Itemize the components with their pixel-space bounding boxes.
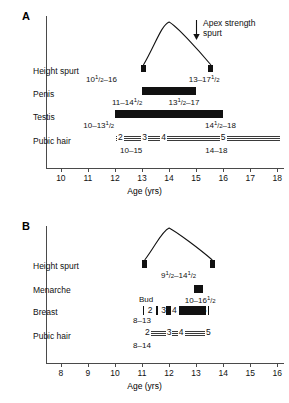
- axis-tick: [88, 168, 89, 172]
- axis-tick: [223, 168, 224, 172]
- axis-tick-label: 10: [51, 173, 71, 183]
- axis-tick: [88, 363, 89, 367]
- breast-stage-number: 2: [147, 306, 154, 315]
- breast-stage-tick: [208, 306, 210, 315]
- axis-tick: [169, 363, 170, 367]
- row-label-pubic-hair-a: Pubic hair: [33, 136, 71, 146]
- axis-tick-label: 14: [213, 368, 233, 378]
- testis-right-range: 141/2–18: [205, 120, 236, 130]
- axis-tick: [223, 363, 224, 367]
- menarche-range: 10–161/2: [185, 295, 216, 305]
- height-spurt-range-b: 91/2–141/2: [161, 270, 196, 280]
- penis-left-range: 11–141/2: [112, 97, 142, 107]
- axis-tick: [169, 168, 170, 172]
- breast-stage-number: 3: [160, 306, 167, 315]
- breast-left-range: 8–13: [133, 316, 151, 325]
- pubic-hair-stage-number: 5: [205, 328, 212, 337]
- panel-a: A 101112131415161718 Age (yrs) Apex stre…: [0, 0, 289, 200]
- axis-tick-label: 12: [105, 173, 125, 183]
- axis-tick-label: 15: [186, 173, 206, 183]
- axis-tick-label: 8: [51, 368, 71, 378]
- breast-stage-tick: [143, 306, 145, 315]
- pubic-hair-stage-number: 4: [160, 133, 167, 142]
- axis-tick-label: 17: [240, 173, 260, 183]
- row-label-breast: Breast: [33, 307, 58, 317]
- axis-tick: [142, 363, 143, 367]
- row-label-menarche: Menarche: [33, 285, 71, 295]
- axis-tick-label: 12: [159, 368, 179, 378]
- height-spurt-end-marker-a: [208, 65, 213, 72]
- row-label-testis: Testis: [33, 112, 55, 122]
- axis-tick: [115, 363, 116, 367]
- height-spurt-right-range-a: 13–171/2: [189, 74, 220, 84]
- breast-stage-tick: [156, 306, 158, 315]
- pubertal-development-figure: A 101112131415161718 Age (yrs) Apex stre…: [0, 0, 289, 403]
- row-label-penis: Penis: [33, 89, 54, 99]
- axis-tick-label: 14: [159, 173, 179, 183]
- testis-left-range: 10–131/2: [83, 120, 114, 130]
- breast-bud-label: Bud: [139, 295, 153, 304]
- panel-a-horizontal-axis: [46, 168, 284, 169]
- penis-right-range: 131/2–17: [168, 97, 199, 107]
- height-spurt-end-marker-b: [210, 260, 215, 268]
- axis-tick: [115, 168, 116, 172]
- pubic-hair-stage-number: 5: [220, 133, 227, 142]
- axis-tick: [250, 363, 251, 367]
- axis-tick: [250, 168, 251, 172]
- pubic-hair-right-range-a: 14–18: [205, 146, 227, 155]
- pubic-hair-stage-number: 4: [178, 328, 185, 337]
- pubic-hair-left-range-b: 8–14: [133, 341, 151, 350]
- menarche-marker: [194, 285, 203, 293]
- axis-tick-label: 16: [267, 368, 287, 378]
- axis-tick: [61, 168, 62, 172]
- height-spurt-start-marker-b: [142, 260, 147, 268]
- height-spurt-start-marker-a: [141, 65, 146, 72]
- panel-b-horizontal-axis: [46, 363, 284, 364]
- height-spurt-left-range-a: 101/2–16: [86, 74, 117, 84]
- penis-development-bar: [142, 87, 196, 95]
- height-spurt-curve-b: [46, 226, 284, 269]
- panel-b-letter: B: [22, 220, 30, 232]
- pubic-hair-stage-number: 3: [166, 328, 173, 337]
- axis-tick-label: 15: [240, 368, 260, 378]
- pubic-hair-left-range-a: 10–15: [120, 146, 142, 155]
- row-label-pubic-hair-b: Pubic hair: [33, 331, 71, 341]
- axis-tick-label: 9: [78, 368, 98, 378]
- axis-tick: [277, 363, 278, 367]
- panel-a-axis-title: Age (yrs): [0, 186, 289, 196]
- panel-a-letter: A: [22, 10, 30, 22]
- pubic-hair-stage-number: 2: [117, 133, 124, 142]
- axis-tick-label: 11: [132, 368, 152, 378]
- axis-tick-label: 16: [213, 173, 233, 183]
- axis-tick: [142, 168, 143, 172]
- axis-tick-label: 13: [132, 173, 152, 183]
- axis-tick-label: 11: [78, 173, 98, 183]
- panel-b-axis-title: Age (yrs): [0, 381, 289, 391]
- height-spurt-curve-a: [46, 20, 284, 74]
- breast-stage-number: 5: [201, 306, 208, 315]
- panel-b: B 8910111213141516 Age (yrs) Height spur…: [0, 200, 289, 403]
- axis-tick: [196, 168, 197, 172]
- axis-tick: [196, 363, 197, 367]
- axis-tick: [277, 168, 278, 172]
- testis-development-bar: [115, 110, 223, 118]
- axis-tick-label: 18: [267, 173, 287, 183]
- axis-tick-label: 10: [105, 368, 125, 378]
- axis-tick: [61, 363, 62, 367]
- pubic-hair-stage-number: 2: [144, 328, 151, 337]
- breast-stage-number: 4: [171, 306, 178, 315]
- pubic-hair-stage-number: 3: [141, 133, 148, 142]
- axis-tick-label: 13: [186, 368, 206, 378]
